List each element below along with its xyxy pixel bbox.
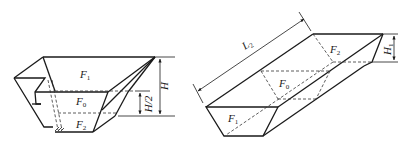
right-left-long-edge <box>206 34 313 107</box>
left-hidden-edge-1 <box>48 80 58 130</box>
diagram-canvas: F1 F0 F2 H H/2 L2 <box>0 0 408 153</box>
right-label-F0: F0 <box>278 77 290 91</box>
left-hatch-3 <box>61 128 64 131</box>
left-hidden-edge-2 <box>52 80 62 130</box>
left-back-left-edge <box>14 57 43 78</box>
right-hidden-F0-left <box>261 71 278 99</box>
left-label-F2: F2 <box>75 118 87 132</box>
right-label-H1: H1 <box>381 43 395 56</box>
left-hopper-figure: F1 F0 F2 H H/2 <box>14 57 175 132</box>
left-label-H: H <box>158 81 170 91</box>
left-label-F1: F1 <box>79 68 91 82</box>
right-trough-figure: L2 H1 F2 F0 F1 <box>193 12 398 136</box>
left-label-H-half: H/2 <box>142 95 154 113</box>
left-outer-slope <box>14 78 53 127</box>
right-label-F2: F2 <box>329 43 341 57</box>
left-label-F0: F0 <box>75 95 87 109</box>
right-dim-L2 <box>198 19 304 91</box>
left-step-outline <box>14 78 45 104</box>
right-label-L2: L2 <box>239 36 256 54</box>
right-ext-L2-bottom <box>193 84 203 103</box>
right-label-F1: F1 <box>227 112 239 126</box>
right-front-face <box>206 107 278 136</box>
